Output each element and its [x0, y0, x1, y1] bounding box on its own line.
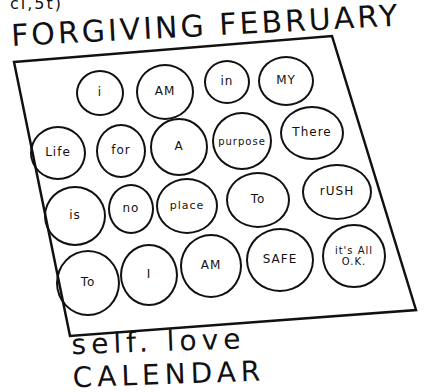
calendar-day: MY — [258, 56, 314, 106]
calendar-day: rUSH — [302, 164, 372, 220]
calendar-day: A — [150, 118, 208, 176]
calendar-day: I — [120, 244, 178, 306]
calendar-day: purpose — [212, 112, 272, 170]
calendar-day: SAFE — [246, 228, 314, 292]
calendar-day: To — [226, 172, 290, 228]
calendar-day: in — [204, 60, 250, 104]
calendar-day: AM — [180, 234, 242, 298]
calendar-day: i — [76, 70, 124, 116]
calendar-caption: self. love CALENDAR — [71, 316, 426, 392]
calendar-day: place — [156, 178, 218, 234]
calendar-day: To — [56, 250, 120, 316]
calendar-day: is — [44, 186, 106, 246]
calendar-day: There — [280, 106, 344, 160]
calendar-day: AM — [136, 64, 194, 120]
calendar-day: for — [96, 124, 146, 178]
calendar-day: no — [108, 184, 154, 234]
calendar-day: it's All O.K. — [322, 224, 386, 288]
calendar-day: Life — [30, 126, 86, 180]
